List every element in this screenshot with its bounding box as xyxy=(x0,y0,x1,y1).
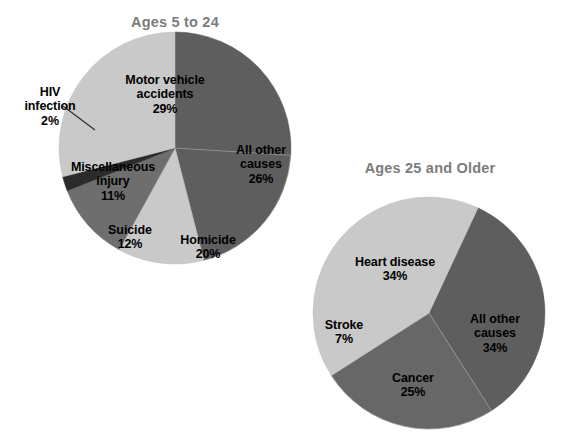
label-heart-disease-name: Heart disease xyxy=(355,255,435,269)
label-hiv-infection-pct: 2% xyxy=(12,114,88,129)
label-stroke-pct: 7% xyxy=(311,332,377,347)
label-heart-disease-pct: 34% xyxy=(334,269,456,284)
label-stroke-name: Stroke xyxy=(325,318,363,332)
label-heart-disease: Heart disease 34% xyxy=(334,240,456,298)
label-hiv-infection-name: HIV infection xyxy=(24,85,75,114)
label-suicide-pct: 12% xyxy=(93,237,167,252)
chart-title-ages-25-and-older: Ages 25 and Older xyxy=(290,160,564,176)
label-miscellaneous-injury-pct: 11% xyxy=(57,189,169,204)
label-motor-vehicle-accidents: Motor vehicle accidents 29% xyxy=(105,58,225,131)
two-pie-chart-figure: Ages 5 to 24 xyxy=(0,0,564,446)
label-cancer: Cancer 25% xyxy=(377,356,449,414)
label-suicide-name: Suicide xyxy=(108,223,152,237)
label-all-other-causes-right-name: All other causes xyxy=(470,312,520,341)
label-homicide-name: Homicide xyxy=(180,233,235,247)
chart-title-ages-5-to-24: Ages 5 to 24 xyxy=(0,14,350,30)
label-homicide-pct: 20% xyxy=(165,247,251,262)
label-motor-vehicle-accidents-name: Motor vehicle accidents xyxy=(125,73,204,102)
label-all-other-causes-left-name: All other causes xyxy=(236,143,286,172)
label-motor-vehicle-accidents-pct: 29% xyxy=(105,102,225,117)
label-all-other-causes-left: All other causes 26% xyxy=(222,128,300,201)
label-all-other-causes-right-pct: 34% xyxy=(456,341,534,356)
label-stroke: Stroke 7% xyxy=(311,303,377,361)
label-cancer-name: Cancer xyxy=(392,371,434,385)
label-all-other-causes-right: All other causes 34% xyxy=(456,297,534,370)
label-cancer-pct: 25% xyxy=(377,385,449,400)
label-hiv-infection: HIV infection 2% xyxy=(12,70,88,143)
label-all-other-causes-left-pct: 26% xyxy=(222,172,300,187)
label-miscellaneous-injury-name: Miscellaneous injury xyxy=(71,160,155,189)
label-miscellaneous-injury: Miscellaneous injury 11% xyxy=(57,145,169,218)
label-homicide: Homicide 20% xyxy=(165,218,251,276)
